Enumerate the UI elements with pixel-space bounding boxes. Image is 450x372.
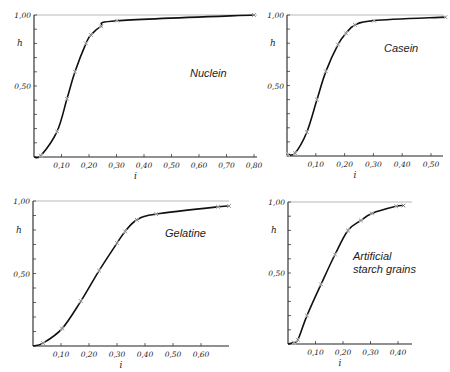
panel-title-line1: Artificial <box>352 250 392 262</box>
x-tick-label: 0,20 <box>336 160 353 169</box>
x-axis-label: i <box>339 358 342 368</box>
y-tick-label-mid: 0,50 <box>14 82 31 91</box>
y-axis-label: h <box>271 225 277 235</box>
x-tick-label: 0,50 <box>163 161 180 170</box>
x-tick-label: 0,80 <box>246 161 263 170</box>
x-tick-label: 0,40 <box>390 348 407 357</box>
chart-panel-0: 1,000,50h0,100,200,300,400,500,600,700,8… <box>14 11 262 181</box>
x-tick-label: 0,50 <box>165 350 182 359</box>
data-point-marker <box>293 151 297 155</box>
data-point-marker <box>89 33 93 37</box>
x-tick-label: 0,70 <box>218 161 235 170</box>
y-tick-label-top: 1,00 <box>13 197 30 206</box>
data-point-marker <box>60 327 64 331</box>
panel-title: Gelatine <box>165 227 206 239</box>
x-tick-label: 0,10 <box>307 348 324 357</box>
x-tick-label: 0,40 <box>136 161 153 170</box>
x-tick-label: 0,30 <box>365 160 382 169</box>
x-tick-label: 0,20 <box>335 348 352 357</box>
x-tick-label: 0,10 <box>53 350 70 359</box>
x-tick-label: 0,10 <box>307 160 324 169</box>
x-tick-label: 0,30 <box>109 350 126 359</box>
x-axis-label: i <box>134 171 137 181</box>
x-tick-label: 0,20 <box>81 350 98 359</box>
panel-title-line2: starch grains <box>353 263 416 275</box>
x-tick-label: 0,40 <box>137 350 154 359</box>
y-tick-label-mid: 0,50 <box>13 270 30 279</box>
x-tick-label: 0,30 <box>108 161 125 170</box>
y-tick-label-top: 1,00 <box>268 198 285 207</box>
x-tick-label: 0,50 <box>423 160 440 169</box>
chart-panel-3: 1,000,50h0,100,200,300,40iArtificialstar… <box>268 198 416 368</box>
y-tick-label-mid: 0,50 <box>268 269 285 278</box>
panel-title: Casein <box>384 42 418 54</box>
x-tick-label: 0,40 <box>394 160 411 169</box>
y-tick-label-top: 1,00 <box>267 11 284 20</box>
figure-panel-grid: 1,000,50h0,100,200,300,400,500,600,700,8… <box>0 0 450 372</box>
y-axis-label: h <box>16 225 22 235</box>
data-curve <box>287 17 445 156</box>
chart-panel-1: 1,000,50h0,100,200,300,400,50iCasein <box>267 11 447 180</box>
data-curve <box>34 15 254 158</box>
x-axis-label: i <box>354 170 357 180</box>
x-tick-label: 0,30 <box>362 348 379 357</box>
x-axis-label: i <box>120 360 123 370</box>
chart-panel-2: 1,000,50h0,100,200,300,400,500,60iGelati… <box>13 197 231 370</box>
panel-title: Nuclein <box>190 67 227 79</box>
y-tick-label-mid: 0,50 <box>267 82 284 91</box>
y-tick-label-top: 1,00 <box>14 11 31 20</box>
x-tick-label: 0,10 <box>53 161 70 170</box>
x-tick-label: 0,60 <box>191 161 208 170</box>
y-axis-label: h <box>270 38 276 48</box>
x-tick-label: 0,20 <box>81 161 98 170</box>
y-axis-label: h <box>17 38 23 48</box>
x-tick-label: 0,60 <box>193 350 210 359</box>
